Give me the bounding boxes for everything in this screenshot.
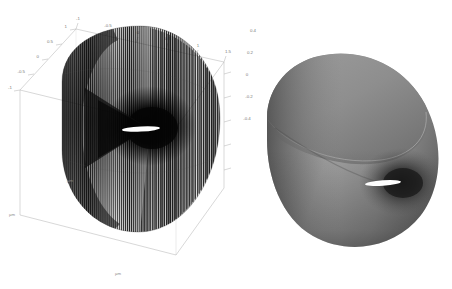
figure-container: -1 -0.5 0 0.5 1 1.5 1 0.5 0 -0.5 -1: [0, 0, 452, 289]
y-axis-title: µm: [9, 212, 15, 217]
y-tick-label: 0: [37, 54, 40, 59]
z-tick-label: 0.2: [247, 50, 254, 55]
z-tick-label: 0.4: [250, 28, 257, 33]
wireframe-surface-plot: -1 -0.5 0 0.5 1 1.5 1 0.5 0 -0.5 -1: [0, 0, 240, 289]
z-axis-ticks: [224, 72, 231, 170]
z-tick-label: -0.4: [243, 116, 251, 121]
y-tick-label: 1: [65, 24, 68, 29]
x-tick-label: 1.5: [225, 49, 232, 54]
z-axis-title: µm: [67, 178, 73, 183]
z-axis-tick-labels: 0.4 0.2 0 -0.2 -0.4: [243, 28, 256, 121]
mesh-surface: [50, 15, 240, 245]
z-tick-label: -0.2: [245, 94, 253, 99]
shaded-surface: [255, 40, 452, 265]
right-plot-svg: 0.4 0.2 0 -0.2 -0.4: [235, 0, 452, 289]
z-tick-label: 0: [246, 72, 249, 77]
y-tick-label: -0.5: [17, 69, 25, 74]
x-tick-label: -1: [76, 16, 80, 21]
x-tick-label: -0.5: [104, 23, 112, 28]
x-tick-label: 1: [197, 43, 200, 48]
shaded-surface-plot: 0.4 0.2 0 -0.2 -0.4: [235, 0, 452, 289]
y-tick-label: 0.5: [47, 39, 54, 44]
y-axis-tick-labels: 1 0.5 0 -0.5 -1: [8, 24, 67, 90]
x-axis-title: µm: [115, 271, 121, 276]
left-plot-svg: -1 -0.5 0 0.5 1 1.5 1 0.5 0 -0.5 -1: [0, 0, 240, 289]
y-tick-label: -1: [8, 85, 12, 90]
